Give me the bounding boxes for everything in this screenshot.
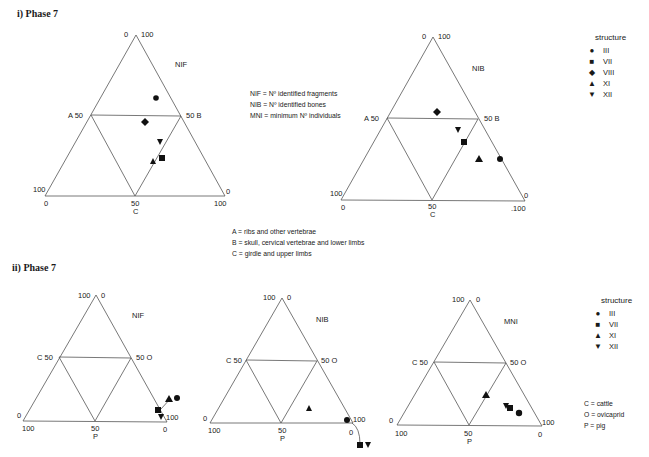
plot-i-nif-mid-left: A 50 — [68, 111, 83, 120]
plot-ii-mni-br-lower: 0 — [538, 430, 542, 439]
plot-ii-mni-bottom-axis: P — [467, 437, 472, 446]
plot-ii-nib-title: NIB — [316, 315, 329, 324]
legend-title: structure — [601, 296, 632, 305]
plot-ii-nib-mid-right: 50 O — [321, 356, 337, 365]
marker-diamond-viii — [141, 118, 149, 126]
definition-nif: NIF = Nº identified fragments — [250, 88, 341, 99]
plot-ii-nif-bl-upper: 0 — [17, 411, 21, 420]
plot-ii-nib-top-left: 100 — [263, 293, 276, 302]
marker-square-vii — [507, 405, 513, 411]
plot-ii-nif-mid-right: 50 O — [136, 353, 152, 362]
legend-item-iii: ●III — [581, 45, 626, 56]
marker-triangle-down-xii — [157, 139, 163, 145]
marker-diamond-viii — [433, 108, 441, 116]
plot-ii-nif-top-right: 0 — [101, 291, 105, 300]
marker-circle-iii — [497, 156, 503, 162]
legend-item-viii: ◆VIII — [581, 67, 626, 78]
plot-ii-mni-bl-lower: 100 — [395, 429, 408, 438]
plot-ii-mni-br-upper: 100 — [542, 418, 555, 427]
species-key-pig: P = pig — [584, 420, 624, 431]
marker-circle-iii — [516, 410, 522, 416]
marker-triangle-up-xi — [165, 395, 173, 402]
plot-i-nif-top-left: 0 — [124, 30, 128, 39]
plot-ii-nif-top-left: 100 — [78, 291, 91, 300]
plot-ii-nib-frame — [210, 298, 360, 444]
triangle-up-marker-icon: ▲ — [581, 79, 603, 88]
circle-marker-icon: ● — [581, 46, 603, 55]
axis-key: A = ribs and other vertebrae B = skull, … — [232, 226, 364, 259]
plot-ii-nib-br-upper: 100 — [353, 415, 366, 424]
triangle-up-marker-icon: ▲ — [587, 331, 609, 340]
triangle-down-marker-icon: ▼ — [587, 342, 609, 351]
plot-ii-nib-mid-left: C 50 — [226, 356, 242, 365]
plot-ii-mni-mid-left: C 50 — [412, 358, 428, 367]
marker-triangle-down-xii — [455, 127, 461, 133]
plot-i-nib-br-upper: 0 — [524, 191, 528, 200]
marker-square-vii — [159, 155, 165, 161]
plot-ii-mni-top-left: 100 — [452, 295, 465, 304]
plot-ii-nif-bottom-axis: P — [93, 432, 98, 441]
marker-circle-iii — [153, 95, 159, 101]
marker-circle-iii — [344, 417, 350, 423]
species-key: C = cattle O = ovicaprid P = pig — [584, 398, 624, 431]
definition-nib: NIB = Nº identified bones — [250, 99, 341, 110]
marker-triangle-up-xi — [306, 405, 312, 411]
plot-i-nif-top-right: 100 — [141, 30, 154, 39]
marker-triangle-down-xii — [158, 414, 164, 420]
square-marker-icon: ■ — [587, 320, 609, 329]
axis-key-c: C = girdle and upper limbs — [232, 248, 364, 259]
marker-square-vii — [155, 407, 161, 413]
plot-i-nib-mid-left: A 50 — [364, 114, 379, 123]
legend-item-vii: ■VII — [587, 319, 632, 330]
plot-ii-nif-mid-left: C 50 — [37, 353, 53, 362]
plot-i-nib-top-right: 100 — [438, 32, 451, 41]
marker-triangle-down-xii — [365, 442, 371, 448]
plot-ii-nif-title: NIF — [132, 311, 144, 320]
plot-ii-nif-bl-lower: 100 — [22, 424, 35, 433]
plot-ii-nib-bottom-axis: P — [280, 434, 285, 443]
abbreviation-definitions: NIF = Nº identified fragments NIB = Nº i… — [250, 88, 341, 121]
plot-ii-mni-mid-right: 50 O — [510, 358, 526, 367]
plot-ii-nib-bl-upper: 0 — [203, 414, 207, 423]
square-marker-icon: ■ — [581, 57, 603, 66]
legend-item-xi: ▲XI — [581, 78, 626, 89]
legend-item-vii: ■VII — [581, 56, 626, 67]
plot-ii-nib-bl-lower: 100 — [208, 426, 221, 435]
legend-item-xii: ▼XII — [581, 89, 626, 100]
plot-i-nib-title: NIB — [472, 64, 485, 73]
marker-circle-iii — [174, 395, 180, 401]
definition-mni: MNI = minimum Nº individuals — [250, 110, 341, 121]
legend-section-i: structure ●III ■VII ◆VIII ▲XI ▼XII — [595, 33, 626, 100]
plot-ii-nif-br-upper: 100 — [166, 413, 179, 422]
plot-ii-nif-br-lower: 0 — [163, 425, 167, 434]
plot-ii-mni-bl-upper: 0 — [389, 416, 393, 425]
plot-i-nib-bl-upper: 100 — [330, 189, 343, 198]
axis-key-b: B = skull, cervical vertebrae and lower … — [232, 237, 364, 248]
marker-square-vii — [461, 139, 467, 145]
legend-section-ii: structure ●III ■VII ▲XI ▼XII — [601, 296, 632, 352]
legend-item-iii: ●III — [587, 308, 632, 319]
species-key-ovicaprid: O = ovicaprid — [584, 409, 624, 420]
plot-ii-nib-br-lower: 0 — [349, 428, 353, 437]
legend-item-xi: ▲XI — [587, 330, 632, 341]
marker-triangle-up-xi — [475, 155, 483, 162]
triangle-down-marker-icon: ▼ — [581, 90, 603, 99]
species-key-cattle: C = cattle — [584, 398, 624, 409]
plot-i-nif-bl-upper: 100 — [33, 185, 46, 194]
marker-square-vii — [357, 442, 363, 448]
section-ii-heading: ii) Phase 7 — [12, 262, 56, 273]
plot-i-nif-mid-right: 50 B — [186, 111, 201, 120]
plot-i-nib-bottom-axis: C — [430, 210, 435, 219]
plot-i-nib-bl-lower: 0 — [341, 203, 345, 212]
legend-title: structure — [595, 33, 626, 42]
plot-ii-mni-top-right: 0 — [476, 295, 480, 304]
plot-ii-mni-title: MNI — [504, 317, 518, 326]
plot-i-nib-top-left: 0 — [422, 32, 426, 41]
plot-i-nib-br-lower: .100 — [511, 204, 526, 213]
plot-i-nif-br-upper: 0 — [226, 187, 230, 196]
plot-i-nif-title: NIF — [175, 60, 187, 69]
diamond-marker-icon: ◆ — [581, 68, 603, 77]
plot-i-nif-bl-lower: 0 — [44, 199, 48, 208]
plot-i-nib-mid-right: 50 B — [484, 114, 499, 123]
plot-i-nif-bottom-axis: C — [133, 207, 138, 216]
